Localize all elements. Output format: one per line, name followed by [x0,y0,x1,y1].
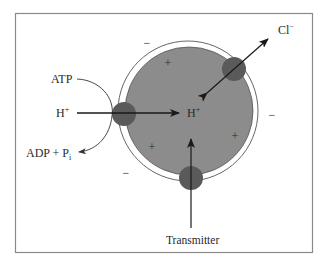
transmitter-label: Transmitter [166,234,219,246]
positive-charge: + [232,129,239,143]
positive-charge: + [149,140,156,154]
negative-charge: − [123,166,130,180]
atp-label: ATP [51,72,73,86]
positive-charge: + [165,56,172,70]
adp-pi-label: ADP + Pi [26,146,72,162]
negative-charge: − [144,36,151,50]
proton-pump [112,102,136,126]
vesicle-transport-diagram: ATP H+ ADP + Pi H+ Cl− Transmitter + + +… [0,0,324,265]
negative-charge: − [269,108,276,122]
